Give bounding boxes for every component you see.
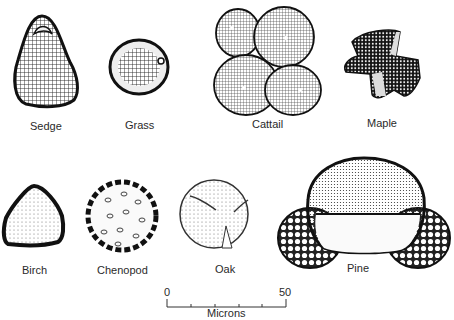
pollen-grains-figure: Sedge Grass Cattail Maple Birch Chenopod…: [0, 0, 454, 320]
scale-start-label: 0: [164, 286, 170, 298]
scale-bar-ruler: [0, 0, 454, 320]
scale-end-label: 50: [279, 286, 291, 298]
scale-unit-label: Microns: [207, 307, 246, 319]
